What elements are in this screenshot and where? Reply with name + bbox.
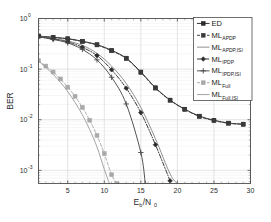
x-tick-label: 20 bbox=[173, 187, 181, 194]
x-tick-label: 15 bbox=[137, 187, 145, 194]
svg-text:-1: -1 bbox=[28, 63, 33, 69]
legend-label: ML bbox=[212, 55, 222, 64]
legend-label: ML bbox=[212, 78, 222, 87]
y-tick-label: 10-1 bbox=[20, 63, 33, 73]
legend-label: ED bbox=[212, 19, 223, 28]
x-tick-label: 30 bbox=[247, 187, 255, 194]
y-tick-label: 100 bbox=[20, 12, 31, 22]
svg-text:-2: -2 bbox=[28, 113, 33, 119]
ber-vs-ebn0-chart: 51015202530 10010-110-210-3 BEREb/N0 EDM… bbox=[0, 0, 271, 222]
svg-text:10: 10 bbox=[20, 167, 28, 174]
legend-label-subscript: APDP,ISI bbox=[222, 47, 242, 53]
legend-label: ML bbox=[212, 31, 222, 40]
legend-label-subscript: IPDP bbox=[222, 59, 234, 65]
svg-text:/N: /N bbox=[143, 197, 152, 207]
legend-label: ML bbox=[212, 66, 222, 75]
x-axis-title: Eb/N0 bbox=[134, 197, 158, 209]
legend-label-subscript: IPDP,ISI bbox=[222, 71, 241, 77]
y-tick-label: 10-2 bbox=[20, 113, 33, 123]
y-tick-label: 10-3 bbox=[20, 164, 33, 174]
legend-label: ML bbox=[212, 43, 222, 52]
y-axis-title: BER bbox=[5, 92, 15, 109]
legend-label-subscript: APDP bbox=[222, 35, 236, 41]
svg-text:0: 0 bbox=[154, 202, 157, 208]
legend-label: ML bbox=[212, 90, 222, 99]
svg-text:-3: -3 bbox=[28, 164, 33, 170]
x-tick-label: 10 bbox=[100, 187, 108, 194]
legend-label-subscript: Full,ISI bbox=[222, 95, 238, 101]
svg-text:10: 10 bbox=[20, 66, 28, 73]
x-tick-label: 5 bbox=[66, 187, 70, 194]
svg-text:10: 10 bbox=[20, 15, 28, 22]
svg-text:10: 10 bbox=[20, 116, 28, 123]
legend-label-subscript: Full bbox=[222, 83, 230, 89]
figure-container: 51015202530 10010-110-210-3 BEREb/N0 EDM… bbox=[0, 0, 271, 222]
x-tick-label: 25 bbox=[210, 187, 218, 194]
svg-text:0: 0 bbox=[28, 12, 31, 18]
legend-box: EDMLAPDPMLAPDP,ISIMLIPDPMLIPDP,ISIMLFull… bbox=[194, 18, 253, 101]
